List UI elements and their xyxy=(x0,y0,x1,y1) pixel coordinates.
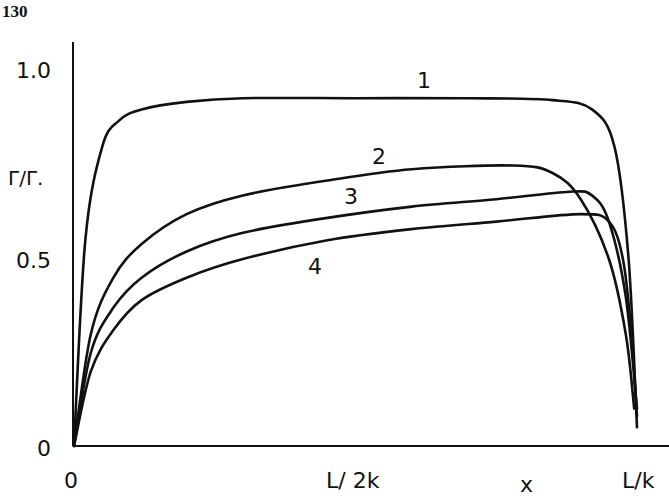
curve-label-1: 1 xyxy=(417,70,431,92)
curve-4 xyxy=(74,214,637,446)
curve-1 xyxy=(74,98,637,446)
curves-group xyxy=(74,98,637,446)
y-tick-0: 0 xyxy=(37,438,51,460)
x-tick-half: L/ 2k xyxy=(326,470,379,492)
line-chart xyxy=(0,0,669,500)
y-axis-label: Γ/Γ. xyxy=(8,168,43,188)
x-axis-label: x xyxy=(520,474,533,496)
y-tick-0-5: 0.5 xyxy=(16,250,51,272)
curve-label-4: 4 xyxy=(308,256,322,278)
x-tick-end: L/k xyxy=(622,470,654,492)
x-tick-0: 0 xyxy=(64,470,78,492)
y-tick-1-0: 1.0 xyxy=(16,60,51,82)
curve-label-3: 3 xyxy=(344,186,358,208)
curve-label-2: 2 xyxy=(372,146,386,168)
